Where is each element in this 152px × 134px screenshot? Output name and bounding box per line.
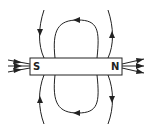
north-pole-label: N xyxy=(111,61,119,72)
field-line-inner-bottom xyxy=(54,75,98,113)
magnet-field-diagram: S N xyxy=(0,0,152,134)
arrow-left-icon xyxy=(73,17,80,23)
arrow-down-icon xyxy=(109,96,115,103)
arrow-up-icon xyxy=(37,96,43,103)
arrow-right-icon xyxy=(14,63,22,69)
arrow-right-icon xyxy=(136,63,144,69)
south-pole-label: S xyxy=(33,61,40,72)
bar-magnet xyxy=(30,58,122,75)
field-line-inner-top xyxy=(54,20,98,58)
arrow-left-icon xyxy=(73,110,80,116)
arrow-up-icon xyxy=(109,31,115,38)
arrow-down-icon xyxy=(37,29,43,36)
arrow-right-icon xyxy=(13,68,22,73)
